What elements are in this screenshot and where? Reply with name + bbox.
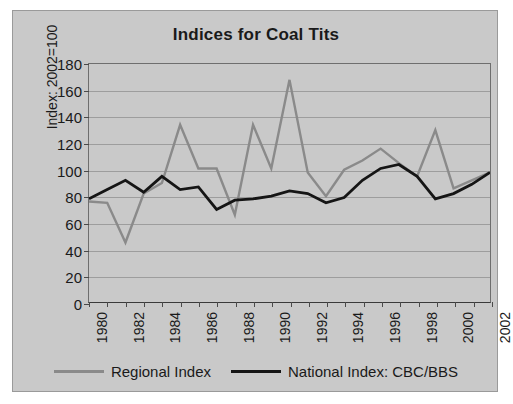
y-tick-mark (84, 277, 89, 278)
plot-area: 0204060801001201401601801980198219841986… (88, 63, 491, 303)
x-tick-mark (199, 302, 200, 307)
y-tick-mark (84, 144, 89, 145)
x-tick-label: 1980 (94, 312, 110, 343)
series-line (89, 80, 490, 243)
x-tick-label: 1986 (204, 312, 220, 343)
x-tick-mark (492, 302, 493, 307)
y-tick-mark (84, 91, 89, 92)
y-tick-label: 80 (65, 189, 82, 206)
x-tick-mark (236, 302, 237, 307)
x-tick-label: 1990 (277, 312, 293, 343)
legend-label: Regional Index (111, 363, 211, 380)
x-tick-mark (126, 302, 127, 307)
x-tick-mark (364, 302, 365, 307)
y-tick-label: 40 (65, 242, 82, 259)
x-tick-mark (89, 302, 90, 307)
x-tick-mark (455, 302, 456, 307)
y-tick-label: 0 (74, 296, 82, 313)
y-tick-label: 100 (57, 162, 82, 179)
y-tick-mark (84, 197, 89, 198)
chart-title: Indices for Coal Tits (13, 25, 499, 45)
legend-label: National Index: CBC/BBS (288, 363, 458, 380)
x-tick-label: 1998 (424, 312, 440, 343)
y-tick-mark (84, 117, 89, 118)
x-tick-mark (272, 302, 273, 307)
series-layer (89, 64, 490, 302)
y-tick-label: 180 (57, 56, 82, 73)
x-tick-mark (181, 302, 182, 307)
x-tick-mark (382, 302, 383, 307)
y-tick-label: 20 (65, 269, 82, 286)
x-tick-mark (400, 302, 401, 307)
legend-entry[interactable]: National Index: CBC/BBS (231, 363, 458, 380)
y-tick-mark (84, 171, 89, 172)
x-tick-mark (217, 302, 218, 307)
x-tick-label: 2000 (460, 312, 476, 343)
x-tick-mark (144, 302, 145, 307)
x-tick-mark (254, 302, 255, 307)
x-tick-mark (474, 302, 475, 307)
x-tick-label: 1988 (241, 312, 257, 343)
x-tick-label: 1992 (314, 312, 330, 343)
y-tick-mark (84, 224, 89, 225)
series-line (89, 164, 490, 209)
legend-line-icon (54, 370, 104, 373)
chart-legend: Regional IndexNational Index: CBC/BBS (13, 363, 499, 380)
x-tick-label: 1982 (131, 312, 147, 343)
x-tick-mark (327, 302, 328, 307)
x-tick-mark (107, 302, 108, 307)
x-tick-label: 1984 (167, 312, 183, 343)
y-tick-label: 160 (57, 82, 82, 99)
y-tick-label: 140 (57, 109, 82, 126)
chart-figure: Indices for Coal Tits Index: 2002=100 02… (12, 10, 498, 392)
x-tick-mark (345, 302, 346, 307)
x-tick-mark (437, 302, 438, 307)
y-tick-mark (84, 251, 89, 252)
y-tick-label: 120 (57, 136, 82, 153)
x-tick-mark (162, 302, 163, 307)
x-tick-label: 2002 (497, 312, 513, 343)
legend-entry[interactable]: Regional Index (54, 363, 211, 380)
x-tick-label: 1994 (350, 312, 366, 343)
y-tick-mark (84, 64, 89, 65)
x-tick-mark (419, 302, 420, 307)
x-tick-mark (291, 302, 292, 307)
y-tick-label: 60 (65, 216, 82, 233)
legend-line-icon (231, 370, 281, 373)
x-tick-mark (309, 302, 310, 307)
x-tick-label: 1996 (387, 312, 403, 343)
